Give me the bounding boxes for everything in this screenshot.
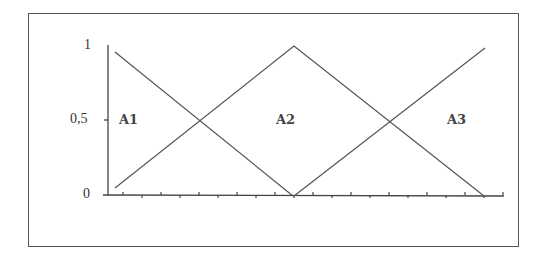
series-a1 (115, 52, 293, 196)
series-a2 (115, 46, 484, 196)
x-axis (103, 195, 504, 196)
label-a3: A3 (447, 112, 466, 127)
label-a2: A2 (276, 112, 295, 127)
label-a1: A1 (119, 112, 138, 127)
y-tick-0: 0 (83, 186, 90, 202)
y-tick-1: 1 (84, 37, 91, 53)
y-tick-0-5: 0,5 (70, 111, 88, 127)
x-ticks (123, 192, 503, 198)
membership-plot (0, 0, 545, 264)
